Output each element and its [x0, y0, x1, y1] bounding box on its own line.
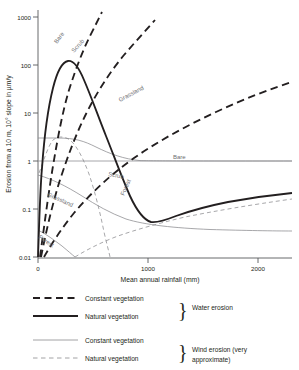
chart-svg: 1000 100 10 1 0.1 0.01 0 1000 2000 Mean … [0, 0, 299, 370]
label-forest-wind: Forest [37, 234, 55, 249]
plot-area: 1000 100 10 1 0.1 0.01 0 1000 2000 Mean … [5, 10, 292, 284]
y-tick-label-10: 10 [24, 110, 31, 117]
curve-water-scrub [41, 20, 155, 257]
x-tick-label-0: 0 [36, 265, 40, 272]
label-grassland-water: Grassland [118, 85, 145, 103]
x-tick-label-2000: 2000 [251, 265, 265, 272]
label-grassland-wind: Grassland [47, 191, 74, 208]
erosion-rainfall-chart: 1000 100 10 1 0.1 0.01 0 1000 2000 Mean … [0, 0, 299, 370]
y-tick-label-0.1: 0.1 [22, 206, 31, 213]
legend-brace-wind: } [178, 341, 188, 363]
label-forest-wind-b: Forest [119, 178, 132, 196]
curve-wind-grassland [38, 175, 292, 231]
legend-label-constant-wind: Constant vegetation [85, 337, 144, 345]
x-axis-ticks [38, 258, 258, 263]
y-axis-title: Erosion from a 10 m, 10° slope in µm/y [5, 75, 13, 193]
label-scrub-wind: Scrub [108, 171, 125, 180]
y-tick-label-1: 1 [28, 158, 32, 165]
curve-water-natural [38, 61, 292, 257]
x-tick-label-1000: 1000 [141, 265, 155, 272]
legend-group-wind-line2: approximate) [192, 356, 230, 364]
label-bare-water: Bare [53, 30, 66, 44]
legend-group-wind-line1: Wind erosion (very [192, 346, 248, 354]
y-axis-ticks [33, 17, 38, 257]
x-axis-title: Mean annual rainfall (mm) [121, 276, 200, 284]
legend-label-constant-water: Constant vegetation [85, 295, 144, 303]
y-tick-label-0.01: 0.01 [19, 254, 32, 261]
legend: Constant vegetation Natural vegetation }… [33, 295, 248, 365]
curve-wind-scrub [38, 138, 292, 161]
legend-group-water: Water erosion [192, 304, 233, 311]
legend-label-natural-water: Natural vegetation [85, 313, 139, 321]
label-bare-wind: Bare [173, 154, 186, 160]
legend-brace-water: } [178, 299, 188, 321]
y-tick-label-1000: 1000 [17, 14, 31, 21]
y-tick-label-100: 100 [21, 62, 32, 69]
legend-label-natural-wind: Natural vegetation [85, 355, 139, 363]
